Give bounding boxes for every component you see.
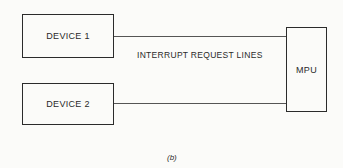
interrupt-line-1 xyxy=(114,36,286,37)
device-1-block: DEVICE 1 xyxy=(22,14,114,58)
mpu-block: MPU xyxy=(286,27,327,112)
figure-caption: (b) xyxy=(167,153,177,162)
interrupt-request-lines-label: INTERRUPT REQUEST LINES xyxy=(137,50,263,60)
device-2-label: DEVICE 2 xyxy=(46,99,89,109)
device-2-block: DEVICE 2 xyxy=(22,83,114,125)
device-1-label: DEVICE 1 xyxy=(46,31,89,41)
mpu-label: MPU xyxy=(296,65,317,75)
interrupt-line-2 xyxy=(114,103,286,104)
